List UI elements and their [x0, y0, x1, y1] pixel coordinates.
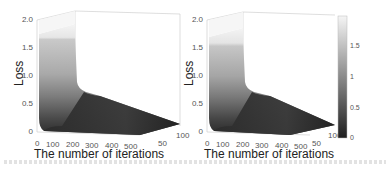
depth-tick: 50 [158, 139, 167, 148]
y-tick: 2.0 [192, 15, 204, 24]
y-tick: 0 [199, 127, 204, 136]
colorbar-tick: 1 [350, 73, 354, 80]
colorbar: 0 0.5 1 1.5 [338, 16, 360, 141]
y-axis-label: Loss [12, 61, 26, 86]
colorbar-tick: 1.5 [350, 42, 360, 49]
y-tick: 1.5 [22, 43, 34, 52]
surface-plot-right: 2.0 1.5 1.0 0.5 0 Loss 0 100 200 300 400… [170, 0, 355, 160]
y-axis-label: Loss [182, 61, 196, 86]
y-tick: 0.5 [192, 99, 204, 108]
plot-canvas-left: 2.0 1.5 1.0 0.5 0 Loss 0 100 200 300 400… [0, 0, 185, 160]
caption-fragment [4, 160, 386, 164]
y-tick: 1.5 [192, 43, 204, 52]
plot-canvas-right: 2.0 1.5 1.0 0.5 0 Loss 0 100 200 300 400… [170, 0, 355, 160]
colorbar-tick: 0 [350, 134, 354, 141]
x-axis-label: The number of iterations [34, 147, 164, 161]
y-tick: 0 [29, 127, 34, 136]
y-tick: 0.5 [22, 99, 34, 108]
x-axis-label: The number of iterations [204, 147, 334, 161]
y-tick: 2.0 [22, 15, 34, 24]
depth-tick: 50 [312, 139, 321, 148]
colorbar-tick: 0.5 [350, 104, 360, 111]
surface-plot-left: 2.0 1.5 1.0 0.5 0 Loss 0 100 200 300 400… [0, 0, 185, 160]
